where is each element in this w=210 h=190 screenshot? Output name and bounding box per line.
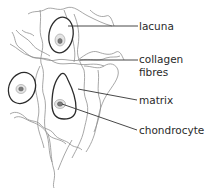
label-chondrocyte: chondrocyte	[139, 124, 204, 136]
label-lacuna: lacuna	[139, 20, 174, 32]
cartilage-diagram	[0, 0, 210, 190]
lacuna-left	[3, 68, 40, 108]
leader-matrix	[78, 89, 137, 100]
leader-chondrocyte	[62, 104, 137, 130]
label-collagen-line1: collagen	[139, 53, 183, 65]
lacuna-top	[46, 15, 76, 55]
lacuna-center	[52, 73, 76, 119]
label-matrix: matrix	[139, 94, 173, 106]
label-collagen-line2: fibres	[139, 66, 168, 78]
